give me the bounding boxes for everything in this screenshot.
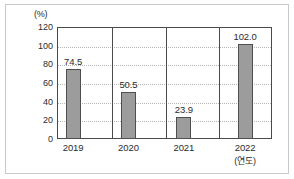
x-axis-note: (연도) xyxy=(218,154,272,167)
x-axis-tick-labels: 2019202020212022(연도) xyxy=(57,142,272,176)
x-tick-label: 2022(연도) xyxy=(218,142,272,167)
y-tick-label: 20 xyxy=(29,115,53,125)
x-tick-label: 2021 xyxy=(157,142,211,153)
y-tick-label: 40 xyxy=(29,97,53,107)
bar[interactable] xyxy=(238,44,253,139)
bar[interactable] xyxy=(66,69,81,139)
y-axis-tick-labels: 020406080100120 xyxy=(29,27,53,139)
y-tick-label: 60 xyxy=(29,78,53,88)
bar-chart-figure: (%) 020406080100120 74.550.523.9102.0 20… xyxy=(0,0,294,179)
x-tick-label: 2020 xyxy=(101,142,155,153)
y-axis-unit-label: (%) xyxy=(34,9,47,19)
x-tick-label: 2019 xyxy=(46,142,100,153)
y-tick-label: 100 xyxy=(29,41,53,51)
bar[interactable] xyxy=(176,117,191,139)
bar[interactable] xyxy=(121,92,136,139)
category-separator xyxy=(166,28,167,138)
category-separator xyxy=(219,28,220,138)
category-separator xyxy=(112,28,113,138)
y-tick-label: 80 xyxy=(29,59,53,69)
y-tick-label: 120 xyxy=(29,22,53,32)
